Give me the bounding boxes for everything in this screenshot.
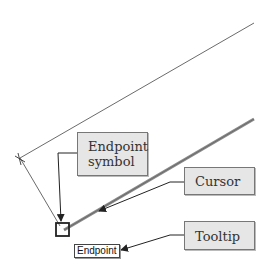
endpoint-symbol-callout-line1: Endpoint <box>88 139 147 154</box>
endpoint-symbol-callout-line2: symbol <box>88 154 147 169</box>
tooltip-callout-label: Tooltip <box>195 229 240 244</box>
endpoint-tooltip-text: Endpoint <box>77 245 116 256</box>
endpoint-tooltip: Endpoint <box>74 244 120 258</box>
endpoint-symbol-callout: Endpoint symbol <box>77 132 148 176</box>
extension-line <box>20 158 60 226</box>
cursor-callout-label: Cursor <box>195 174 240 189</box>
tooltip-leader <box>121 235 184 250</box>
endpoint-symbol-leader <box>58 153 77 221</box>
tooltip-callout: Tooltip <box>184 221 255 250</box>
cursor-callout: Cursor <box>184 167 255 195</box>
